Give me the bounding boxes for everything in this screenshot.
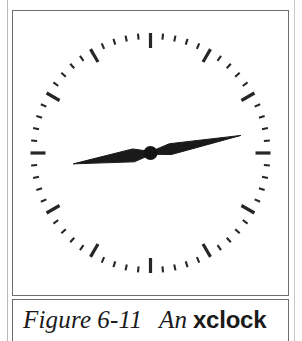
minute-tick <box>53 220 58 224</box>
hour-tick <box>203 49 211 62</box>
minute-tick <box>33 128 39 129</box>
minute-tick <box>162 34 163 40</box>
minute-tick <box>113 261 115 267</box>
minute-tick <box>174 265 175 271</box>
minute-tick <box>255 104 260 106</box>
minute-tick <box>80 56 84 61</box>
scanned-page: Figure6-11Anxclock <box>0 0 302 341</box>
minute-tick <box>70 64 74 68</box>
minute-tick <box>235 73 239 77</box>
hour-tick <box>241 206 254 214</box>
minute-tick <box>41 104 46 106</box>
minute-tick <box>243 82 248 86</box>
hour-tick <box>47 93 60 101</box>
minute-tick <box>218 245 222 250</box>
minute-tick <box>227 64 231 68</box>
minute-tick <box>259 116 265 118</box>
minute-tick <box>255 199 260 201</box>
minute-tick <box>235 229 239 233</box>
minute-tick <box>186 39 188 45</box>
minute-tick <box>138 266 139 272</box>
minute-tick <box>33 177 39 178</box>
minute-tick <box>53 82 58 86</box>
clock-hands <box>73 135 241 163</box>
minute-tick <box>243 220 248 224</box>
xclock-window[interactable] <box>12 10 289 296</box>
minute-tick <box>162 266 163 272</box>
hour-tick <box>91 49 99 62</box>
caption-lead: An <box>159 306 187 333</box>
minute-hand <box>145 135 241 154</box>
minute-tick <box>70 238 74 242</box>
minute-tick <box>102 43 104 48</box>
minute-tick <box>113 39 115 45</box>
minute-tick <box>31 140 37 141</box>
minute-tick <box>218 56 222 61</box>
minute-tick <box>259 188 265 190</box>
hour-tick <box>47 206 60 214</box>
minute-tick <box>126 265 127 271</box>
hour-tick <box>91 244 99 257</box>
minute-tick <box>36 116 42 118</box>
page-left-rule <box>7 0 8 341</box>
minute-tick <box>61 73 65 77</box>
minute-tick <box>31 165 37 166</box>
minute-tick <box>262 128 268 129</box>
minute-tick <box>174 36 175 42</box>
minute-tick <box>186 261 188 267</box>
figure-caption: Figure6-11Anxclock <box>23 303 266 340</box>
hour-tick <box>203 244 211 257</box>
figure-caption-box: Figure6-11Anxclock <box>12 299 289 341</box>
clock-face-svg <box>13 11 288 295</box>
minute-tick <box>197 43 199 48</box>
minute-tick <box>264 165 270 166</box>
minute-tick <box>61 229 65 233</box>
minute-tick <box>41 199 46 201</box>
clock-face <box>13 11 288 295</box>
caption-label-prefix: Figure <box>23 306 91 333</box>
minute-tick <box>227 238 231 242</box>
minute-tick <box>102 257 104 262</box>
page-right-rule <box>294 0 295 341</box>
minute-tick <box>262 177 268 178</box>
clock-hub <box>144 146 158 160</box>
minute-tick <box>36 188 42 190</box>
hour-tick <box>241 93 254 101</box>
minute-tick <box>264 140 270 141</box>
minute-tick <box>126 36 127 42</box>
minute-tick <box>80 245 84 250</box>
minute-tick <box>138 34 139 40</box>
minute-tick <box>197 257 199 262</box>
caption-figure-number: 6-11 <box>97 306 142 333</box>
caption-app-name: xclock <box>193 306 267 333</box>
